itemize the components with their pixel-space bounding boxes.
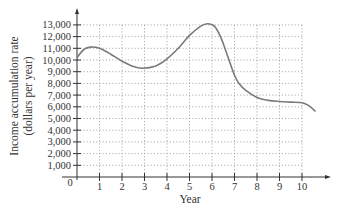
y-tick-label: 2,000 xyxy=(47,148,71,159)
y-axis-title-line-2: (dollars per year) xyxy=(22,56,35,135)
y-tick-label: 3,000 xyxy=(47,136,71,147)
x-tick-label: 7 xyxy=(232,181,237,192)
income-chart: 1,0002,0003,0004,0005,0006,0007,0008,000… xyxy=(0,0,344,215)
x-tick-label: 1 xyxy=(97,181,102,192)
x-tick-label: 6 xyxy=(209,181,214,192)
y-tick-label: 11,000 xyxy=(43,43,72,54)
y-tick-label: 12,000 xyxy=(42,31,71,42)
x-tick-label: 4 xyxy=(164,181,170,192)
y-ticks: 1,0002,0003,0004,0005,0006,0007,0008,000… xyxy=(42,19,81,170)
x-axis-title: Year xyxy=(179,193,200,205)
x-tick-label: 8 xyxy=(254,181,259,192)
y-tick-label: 1,000 xyxy=(47,160,71,171)
origin-label: 0 xyxy=(67,177,72,188)
y-tick-label: 5,000 xyxy=(47,113,71,124)
x-tick-label: 2 xyxy=(119,181,124,192)
y-tick-label: 8,000 xyxy=(47,78,71,89)
y-tick-label: 4,000 xyxy=(47,125,71,136)
y-tick-label: 9,000 xyxy=(47,66,71,77)
y-tick-label: 7,000 xyxy=(47,90,71,101)
x-tick-label: 9 xyxy=(277,181,282,192)
y-axis-title-line-1: Income accumulation rate xyxy=(8,36,20,155)
y-axis-arrow-icon xyxy=(75,8,79,14)
y-axis-title: Income accumulation rate (dollars per ye… xyxy=(8,36,35,155)
x-axis-arrow-icon xyxy=(325,175,331,179)
x-ticks: 12345678910 xyxy=(97,173,307,192)
y-tick-label: 6,000 xyxy=(47,101,71,112)
x-tick-label: 3 xyxy=(142,181,147,192)
x-tick-label: 10 xyxy=(297,181,308,192)
y-tick-label: 13,000 xyxy=(42,19,71,30)
axes xyxy=(62,8,331,180)
y-tick-label: 10,000 xyxy=(42,55,71,66)
x-tick-label: 5 xyxy=(187,181,192,192)
